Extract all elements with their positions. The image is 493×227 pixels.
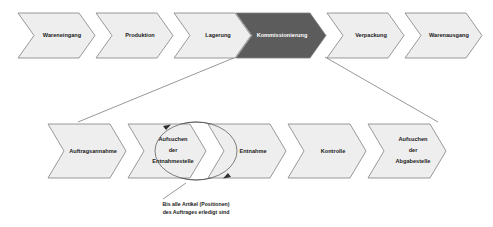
- process-step-warenausgang[interactable]: Warenausgang: [405, 13, 482, 58]
- loop-caption: Bis alle Artikel (Positionen) des Auftra…: [163, 183, 230, 215]
- caption-line-1: Bis alle Artikel (Positionen): [163, 201, 230, 207]
- process-step-label: Lagerung: [205, 32, 231, 38]
- detail-step-label-line2: der: [409, 147, 419, 153]
- drilldown-connectors: [78, 57, 438, 122]
- process-step-label: Produktion: [125, 32, 155, 38]
- connector-right: [325, 57, 438, 122]
- chevron-shape: [128, 124, 206, 178]
- detail-step-entnahme[interactable]: Entnahme: [208, 124, 286, 178]
- chevron-shape: [368, 124, 446, 178]
- detail-step-aufsuchen-abgabestelle[interactable]: Aufsuchen der Abgabestelle: [368, 124, 446, 178]
- process-step-label: Kommissionierung: [257, 32, 308, 38]
- process-step-label: Verpackung: [355, 32, 387, 38]
- detail-step-label-line2: der: [169, 147, 179, 153]
- connector-left: [78, 57, 236, 122]
- caption-leader-line: [163, 183, 186, 199]
- detail-step-label: Auftragsannahme: [69, 148, 117, 154]
- detail-step-kontrolle[interactable]: Kontrolle: [288, 124, 366, 178]
- detail-step-label-line3: Abgabestelle: [396, 158, 431, 164]
- detail-step-label: Kontrolle: [321, 148, 346, 154]
- detail-step-label-line1: Aufsuchen: [399, 136, 428, 142]
- detail-step-label-line1: Aufsuchen: [159, 136, 188, 142]
- process-step-label: Warenausgang: [429, 32, 469, 38]
- caption-line-2: des Auftrages erledigt sind: [163, 209, 230, 215]
- process-step-produktion[interactable]: Produktion: [96, 13, 173, 58]
- diagram-canvas: Wareneingang Produktion Lagerung Kommiss…: [0, 0, 493, 227]
- kommissionierung-detail-chain: Auftragsannahme Aufsuchen der Entnahmest…: [48, 124, 446, 178]
- process-step-lagerung[interactable]: Lagerung: [174, 13, 251, 58]
- detail-step-label: Entnahme: [239, 148, 266, 154]
- process-step-wareneingang[interactable]: Wareneingang: [18, 13, 95, 58]
- detail-step-aufsuchen-entnahmestelle[interactable]: Aufsuchen der Entnahmestelle: [128, 124, 206, 178]
- process-step-verpackung[interactable]: Verpackung: [327, 13, 404, 58]
- detail-step-auftragsannahme[interactable]: Auftragsannahme: [48, 124, 126, 178]
- process-step-label: Wareneingang: [43, 32, 82, 38]
- main-process-chain: Wareneingang Produktion Lagerung Kommiss…: [18, 13, 482, 58]
- process-chain-diagram: Wareneingang Produktion Lagerung Kommiss…: [0, 0, 493, 227]
